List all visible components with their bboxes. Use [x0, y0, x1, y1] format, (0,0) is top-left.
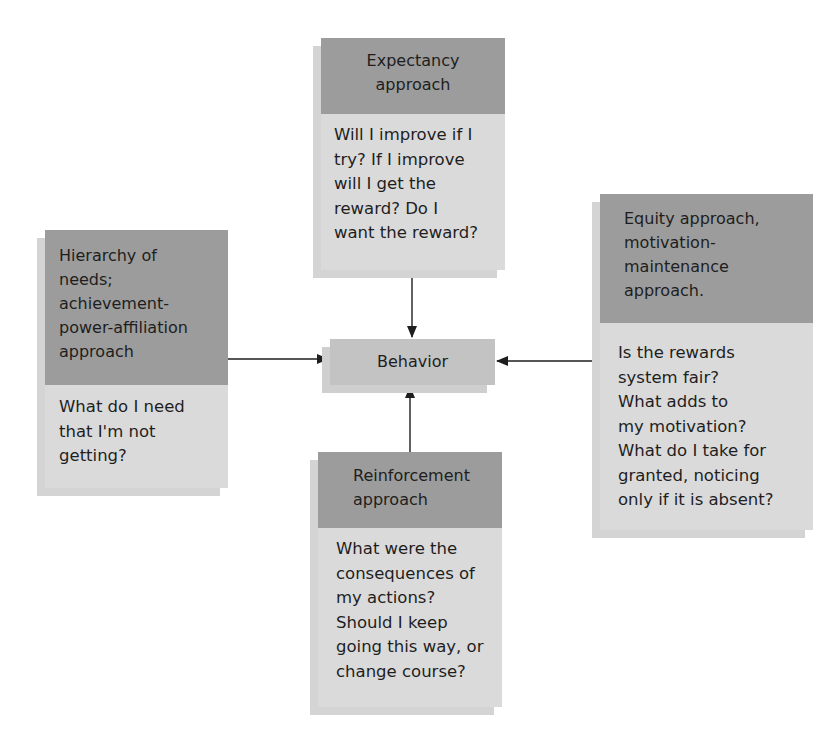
- node-title: Reinforcement approach: [318, 452, 502, 528]
- node-questions: What were the consequences of my actions…: [318, 528, 502, 707]
- node-title: Expectancy approach: [321, 38, 505, 114]
- node-title: Hierarchy of needs; achievement- power-a…: [45, 230, 228, 385]
- node-hierarchy: Hierarchy of needs; achievement- power-a…: [45, 230, 228, 488]
- node-questions: What do I need that I'm not getting?: [45, 385, 228, 488]
- behavior-label: Behavior: [330, 339, 495, 385]
- node-title: Equity approach, motivation- maintenance…: [600, 194, 813, 323]
- node-questions: Will I improve if I try? If I improve wi…: [321, 114, 505, 270]
- node-expectancy: Expectancy approach Will I improve if I …: [321, 38, 505, 270]
- node-equity: Equity approach, motivation- maintenance…: [600, 194, 813, 530]
- node-reinforcement: Reinforcement approach What were the con…: [318, 452, 502, 707]
- node-behavior: Behavior: [330, 339, 495, 385]
- node-questions: Is the rewards system fair? What adds to…: [600, 323, 813, 530]
